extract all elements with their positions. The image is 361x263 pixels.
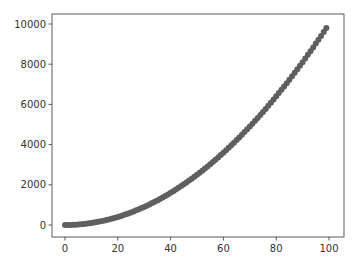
y-tick-label: 6000 xyxy=(21,99,46,110)
plot-frame xyxy=(52,14,344,237)
x-tick-label: 80 xyxy=(270,243,283,254)
scatter-chart: 020406080100 0200040006000800010000 xyxy=(0,0,361,263)
y-tick-label: 4000 xyxy=(21,139,46,150)
x-tick-label: 20 xyxy=(111,243,124,254)
data-points xyxy=(62,25,329,228)
x-tick-label: 60 xyxy=(217,243,230,254)
y-tick-label: 0 xyxy=(40,220,46,231)
x-tick-label: 100 xyxy=(319,243,338,254)
y-tick-label: 10000 xyxy=(14,19,46,30)
x-tick-label: 0 xyxy=(62,243,68,254)
y-axis-ticks: 0200040006000800010000 xyxy=(14,19,52,231)
y-tick-label: 2000 xyxy=(21,179,46,190)
y-tick-label: 8000 xyxy=(21,59,46,70)
x-tick-label: 40 xyxy=(164,243,177,254)
data-point xyxy=(323,25,329,31)
x-axis-ticks: 020406080100 xyxy=(62,237,339,254)
